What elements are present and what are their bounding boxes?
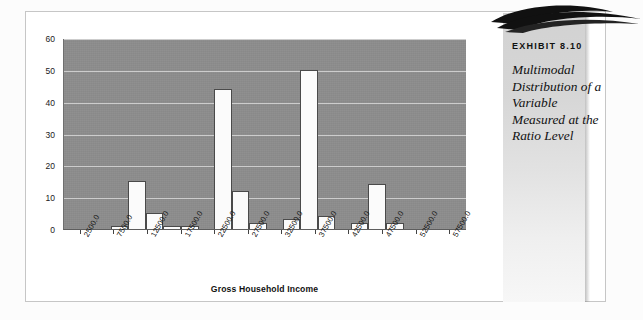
histogram-bar [300, 70, 318, 229]
y-axis-tick-label: 40 [46, 98, 55, 108]
y-axis-tick-label: 10 [46, 193, 55, 203]
histogram-bar [214, 89, 232, 229]
histogram-bar [368, 184, 386, 229]
y-axis: 0102030405060 [27, 39, 59, 230]
y-axis-tick-label: 0 [50, 225, 55, 235]
x-axis-labels: 2500.07500.012500.017500.022500.027500.0… [63, 234, 466, 282]
y-axis-tick-label: 30 [46, 130, 55, 140]
bar-series [64, 39, 466, 229]
y-axis-tick-label: 20 [46, 161, 55, 171]
y-axis-tick-label: 60 [46, 34, 55, 44]
y-axis-tick-label: 50 [46, 66, 55, 76]
x-axis-title: Gross Household Income [63, 284, 466, 294]
exhibit-caption: Multimodal Distribution of a Variable Me… [512, 62, 608, 145]
histogram-bar [232, 191, 250, 229]
exhibit-panel [503, 13, 585, 302]
histogram-bar [163, 226, 181, 229]
exhibit-page: 0102030405060 2500.07500.012500.017500.0… [0, 0, 643, 320]
histogram-chart: 0102030405060 2500.07500.012500.017500.0… [27, 12, 482, 301]
plot-area [63, 39, 466, 230]
exhibit-panel-shadow [585, 13, 590, 302]
exhibit-label: EXHIBIT 8.10 [512, 41, 622, 51]
